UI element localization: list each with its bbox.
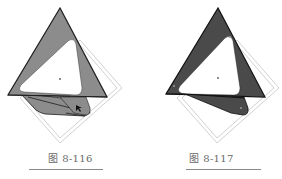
handle-point xyxy=(229,36,231,38)
handle-point xyxy=(173,85,175,87)
figure-8-117: 图 8-117 xyxy=(141,0,282,179)
figure-8-116: 图 8-116 xyxy=(0,0,141,179)
center-point xyxy=(217,77,219,79)
figure-caption: 图 8-117 xyxy=(141,150,282,165)
caption-underline xyxy=(186,169,261,170)
handle-point xyxy=(240,107,242,109)
center-point xyxy=(59,78,61,80)
caption-underline xyxy=(29,169,103,170)
figure-caption: 图 8-116 xyxy=(0,150,141,165)
